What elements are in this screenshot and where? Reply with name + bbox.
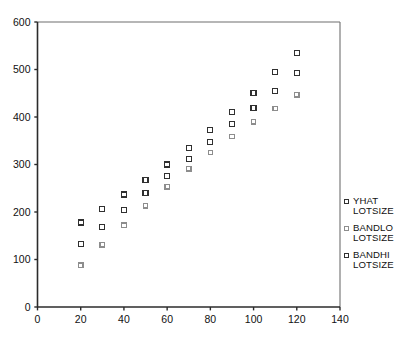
y-axis-tick-label: 300 bbox=[13, 158, 31, 170]
data-point-yhat bbox=[100, 225, 105, 230]
plot-area: 0100200300400500600 020406080100120140 bbox=[0, 0, 409, 342]
data-point-bandhi bbox=[229, 109, 234, 114]
x-axis-tick-label: 120 bbox=[288, 313, 306, 325]
data-point-bandlo bbox=[100, 243, 104, 247]
data-point-yhat bbox=[208, 139, 213, 144]
y-axis-tick-label: 0 bbox=[25, 301, 31, 313]
data-point-yhat bbox=[273, 88, 278, 93]
data-point-bandlo bbox=[208, 150, 212, 154]
x-axis-tick-label: 100 bbox=[245, 313, 263, 325]
chart-legend: YHAT LOTSIZE BANDLO LOTSIZE BANDHI LOTSI… bbox=[344, 196, 409, 277]
data-point-bandhi bbox=[294, 50, 299, 55]
x-axis-tick-label: 60 bbox=[161, 313, 173, 325]
data-point-yhat bbox=[121, 208, 126, 213]
legend-sublabel-yhat: LOTSIZE bbox=[353, 206, 409, 216]
y-axis-tick-label: 600 bbox=[13, 16, 31, 28]
data-point-bandlo bbox=[273, 106, 277, 110]
legend-item-bandlo[interactable]: BANDLO LOTSIZE bbox=[344, 223, 409, 243]
y-axis-tick-label: 200 bbox=[13, 206, 31, 218]
series-bandhi bbox=[78, 50, 299, 225]
legend-marker-bandhi-icon bbox=[344, 253, 349, 258]
data-point-yhat bbox=[165, 173, 170, 178]
data-points-layer bbox=[78, 50, 299, 267]
data-point-bandlo bbox=[187, 167, 191, 171]
data-point-bandhi bbox=[208, 127, 213, 132]
series-bandlo bbox=[79, 92, 299, 267]
data-point-bandhi bbox=[78, 220, 83, 225]
legend-item-bandhi[interactable]: BANDHI LOTSIZE bbox=[344, 250, 409, 270]
data-point-bandhi bbox=[100, 206, 105, 211]
data-point-bandhi bbox=[165, 162, 170, 167]
data-point-bandlo bbox=[122, 223, 126, 227]
x-axis-tick-label: 20 bbox=[75, 313, 87, 325]
data-point-bandhi bbox=[121, 192, 126, 197]
y-axis-tick-label: 400 bbox=[13, 111, 31, 123]
data-point-bandlo bbox=[143, 204, 147, 208]
y-axis-tick-label: 100 bbox=[13, 253, 31, 265]
data-point-bandhi bbox=[186, 145, 191, 150]
data-point-yhat bbox=[78, 241, 83, 246]
legend-marker-bandlo-icon bbox=[344, 226, 349, 231]
legend-sublabel-bandlo: LOTSIZE bbox=[353, 233, 409, 243]
data-point-bandhi bbox=[251, 90, 256, 95]
x-axis-tick-label: 0 bbox=[35, 313, 41, 325]
series-yhat bbox=[78, 71, 299, 247]
data-point-yhat bbox=[186, 156, 191, 161]
x-axis-tick-labels: 020406080100120140 bbox=[35, 313, 349, 325]
data-point-yhat bbox=[143, 191, 148, 196]
data-point-bandhi bbox=[143, 178, 148, 183]
x-axis-tick-label: 140 bbox=[331, 313, 349, 325]
legend-sublabel-bandhi: LOTSIZE bbox=[353, 260, 409, 270]
x-axis-tick-label: 40 bbox=[118, 313, 130, 325]
data-point-bandlo bbox=[230, 134, 234, 138]
data-point-yhat bbox=[251, 105, 256, 110]
data-point-bandlo bbox=[79, 263, 83, 267]
scatter-chart: 0100200300400500600 020406080100120140 Y… bbox=[0, 0, 409, 342]
legend-item-yhat[interactable]: YHAT LOTSIZE bbox=[344, 196, 409, 216]
data-point-bandlo bbox=[165, 185, 169, 189]
data-point-bandhi bbox=[273, 70, 278, 75]
data-point-bandlo bbox=[295, 92, 299, 96]
data-point-bandlo bbox=[251, 120, 255, 124]
data-point-yhat bbox=[294, 71, 299, 76]
legend-marker-yhat-icon bbox=[344, 199, 349, 204]
x-axis-tick-label: 80 bbox=[205, 313, 217, 325]
y-axis-tick-labels: 0100200300400500600 bbox=[13, 16, 31, 313]
y-axis-tick-label: 500 bbox=[13, 63, 31, 75]
data-point-yhat bbox=[229, 121, 234, 126]
